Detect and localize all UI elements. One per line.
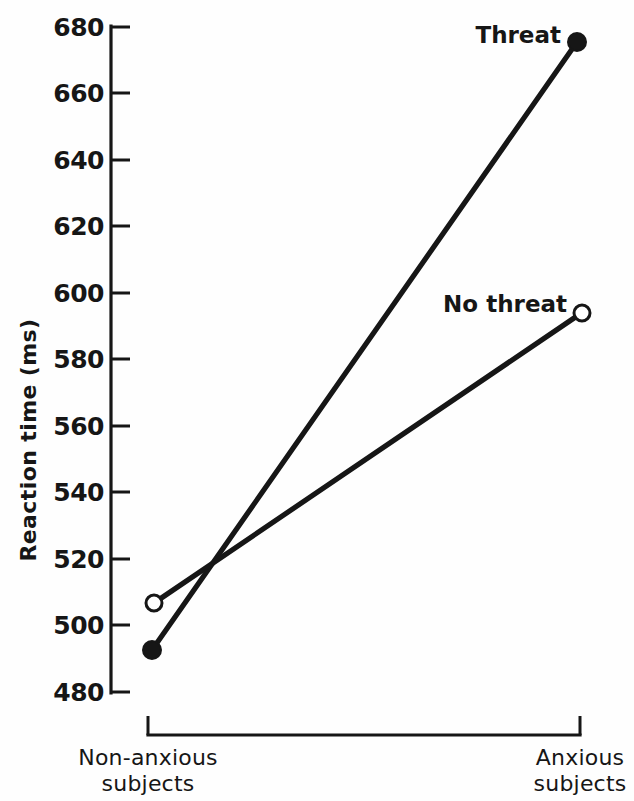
x-label-anxious-line2: subjects bbox=[534, 771, 627, 796]
y-axis-title: Reaction time (ms) bbox=[16, 318, 41, 561]
y-tick-label-600: 600 bbox=[53, 279, 104, 308]
y-tick-label-640: 640 bbox=[53, 146, 104, 175]
y-tick-label-560: 560 bbox=[53, 412, 104, 441]
y-tick-label-580: 580 bbox=[53, 345, 104, 374]
y-axis: 680 660 640 620 600 580 560 540 520 500 … bbox=[16, 13, 130, 707]
y-tick-label-680: 680 bbox=[53, 13, 104, 42]
series-no-threat-label: No threat bbox=[443, 291, 567, 317]
chart-figure: 680 660 640 620 600 580 560 540 520 500 … bbox=[0, 0, 634, 801]
x-label-non-anxious-line1: Non-anxious bbox=[78, 745, 217, 770]
reaction-time-line-chart: 680 660 640 620 600 580 560 540 520 500 … bbox=[0, 0, 634, 801]
series-threat-point-non-anxious bbox=[143, 641, 161, 659]
y-tick-label-480: 480 bbox=[53, 678, 104, 707]
y-tick-label-520: 520 bbox=[53, 545, 104, 574]
y-tick-label-660: 660 bbox=[53, 79, 104, 108]
y-tick-label-540: 540 bbox=[53, 478, 104, 507]
x-label-non-anxious-line2: subjects bbox=[102, 771, 195, 796]
series-no-threat-point-anxious bbox=[574, 305, 590, 321]
y-tick-label-620: 620 bbox=[53, 212, 104, 241]
series-threat-point-anxious bbox=[568, 33, 586, 51]
y-tick-label-500: 500 bbox=[53, 611, 104, 640]
series-no-threat-point-non-anxious bbox=[146, 595, 162, 611]
x-label-anxious-line1: Anxious bbox=[536, 745, 624, 770]
series-no-threat-line bbox=[154, 314, 580, 603]
series-threat-label: Threat bbox=[475, 22, 561, 48]
x-axis: Non-anxious subjects Anxious subjects bbox=[78, 716, 626, 796]
